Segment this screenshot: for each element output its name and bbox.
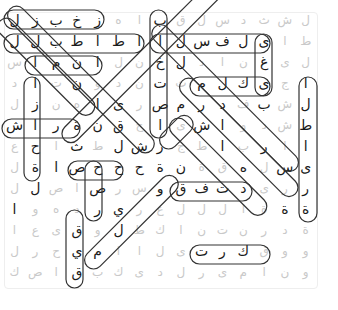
grid-cell[interactable]: ة (66, 115, 87, 136)
grid-cell[interactable]: س (274, 157, 295, 178)
grid-cell[interactable]: ص (25, 262, 46, 283)
grid-cell[interactable]: ر (25, 241, 46, 262)
grid-cell[interactable]: ل (4, 241, 25, 262)
grid-cell[interactable]: ا (46, 136, 67, 157)
grid-cell[interactable]: د (108, 73, 129, 94)
grid-cell[interactable]: ص (87, 178, 108, 199)
grid-cell[interactable]: ز (25, 10, 46, 31)
grid-cell[interactable]: ا (87, 31, 108, 52)
grid-cell[interactable]: ل (4, 178, 25, 199)
grid-cell[interactable]: و (87, 220, 108, 241)
grid-cell[interactable]: د (212, 94, 233, 115)
grid-cell[interactable]: ا (87, 52, 108, 73)
grid-cell[interactable]: ن (170, 157, 191, 178)
grid-cell[interactable]: ر (254, 220, 275, 241)
grid-cell[interactable]: ى (295, 157, 316, 178)
grid-cell[interactable]: ن (129, 52, 150, 73)
grid-cell[interactable]: ه (233, 157, 254, 178)
grid-cell[interactable]: ل (4, 31, 25, 52)
grid-cell[interactable]: د (66, 199, 87, 220)
grid-cell[interactable]: ل (295, 10, 316, 31)
grid-cell[interactable]: و (274, 241, 295, 262)
grid-cell[interactable]: ف (191, 178, 212, 199)
grid-cell[interactable]: ش (274, 10, 295, 31)
grid-cell[interactable]: ل (108, 220, 129, 241)
grid-cell[interactable]: ز (25, 94, 46, 115)
grid-cell[interactable]: م (233, 262, 254, 283)
grid-cell[interactable]: م (46, 52, 67, 73)
grid-cell[interactable]: ا (170, 220, 191, 241)
grid-cell[interactable]: ا (212, 115, 233, 136)
grid-cell[interactable]: خ (66, 10, 87, 31)
grid-cell[interactable]: ك (233, 241, 254, 262)
grid-cell[interactable]: ق (212, 157, 233, 178)
grid-cell[interactable]: ش (129, 136, 150, 157)
grid-cell[interactable]: ع (150, 199, 171, 220)
grid-cell[interactable]: ى (254, 178, 275, 199)
grid-cell[interactable]: د (274, 220, 295, 241)
grid-cell[interactable]: ت (212, 220, 233, 241)
grid-cell[interactable]: ص (150, 94, 171, 115)
grid-cell[interactable]: ل (170, 262, 191, 283)
grid-cell[interactable]: س (129, 178, 150, 199)
grid-cell[interactable]: ى (254, 31, 275, 52)
grid-cell[interactable]: ب (46, 31, 67, 52)
grid-cell[interactable]: ا (212, 136, 233, 157)
grid-cell[interactable]: ا (129, 241, 150, 262)
grid-cell[interactable]: و (295, 241, 316, 262)
grid-cell[interactable]: ى (46, 220, 67, 241)
grid-cell[interactable]: ب (46, 10, 67, 31)
grid-cell[interactable]: د (150, 262, 171, 283)
grid-cell[interactable]: ة (254, 199, 275, 220)
grid-cell[interactable]: د (254, 115, 275, 136)
grid-cell[interactable]: ف (212, 31, 233, 52)
grid-cell[interactable]: س (4, 52, 25, 73)
grid-cell[interactable]: د (233, 10, 254, 31)
grid-cell[interactable]: م (170, 94, 191, 115)
grid-cell[interactable]: ة (295, 199, 316, 220)
grid-cell[interactable]: ل (295, 94, 316, 115)
grid-cell[interactable]: ش (274, 94, 295, 115)
grid-cell[interactable]: ج (170, 136, 191, 157)
grid-cell[interactable]: ز (87, 10, 108, 31)
grid-cell[interactable]: ن (129, 73, 150, 94)
grid-cell[interactable]: ك (150, 220, 171, 241)
grid-cell[interactable]: ش (274, 115, 295, 136)
grid-cell[interactable]: ل (25, 178, 46, 199)
grid-cell[interactable]: ا (129, 31, 150, 52)
grid-cell[interactable]: و (87, 73, 108, 94)
grid-cell[interactable]: ا (25, 52, 46, 73)
grid-cell[interactable]: ك (233, 73, 254, 94)
grid-cell[interactable]: ن (191, 220, 212, 241)
grid-cell[interactable]: ت (212, 178, 233, 199)
grid-cell[interactable]: ا (150, 31, 171, 52)
grid-cell[interactable]: ن (66, 73, 87, 94)
grid-cell[interactable]: ح (25, 136, 46, 157)
grid-cell[interactable]: ر (87, 199, 108, 220)
grid-cell[interactable]: ص (46, 178, 67, 199)
grid-cell[interactable]: غ (254, 52, 275, 73)
grid-cell[interactable]: ل (108, 136, 129, 157)
grid-cell[interactable]: ا (295, 136, 316, 157)
grid-cell[interactable]: ا (212, 52, 233, 73)
grid-cell[interactable]: ح (129, 157, 150, 178)
grid-cell[interactable]: ط (129, 220, 150, 241)
grid-cell[interactable]: ر (129, 199, 150, 220)
grid-cell[interactable]: خ (150, 52, 171, 73)
grid-cell[interactable]: ث (254, 10, 275, 31)
grid-cell[interactable]: ب (87, 262, 108, 283)
grid-cell[interactable]: ى (170, 115, 191, 136)
grid-cell[interactable]: ح (108, 157, 129, 178)
grid-cell[interactable]: ه (46, 199, 67, 220)
grid-cell[interactable]: ى (129, 262, 150, 283)
grid-cell[interactable]: ر (108, 178, 129, 199)
grid-cell[interactable]: ا (274, 31, 295, 52)
grid-cell[interactable]: ط (108, 31, 129, 52)
grid-cell[interactable]: ل (25, 31, 46, 52)
grid-cell[interactable]: ك (108, 262, 129, 283)
grid-cell[interactable]: ب (233, 136, 254, 157)
grid-cell[interactable]: د (191, 52, 212, 73)
grid-cell[interactable]: ح (129, 115, 150, 136)
grid-cell[interactable]: ل (4, 157, 25, 178)
grid-cell[interactable]: ل (191, 10, 212, 31)
